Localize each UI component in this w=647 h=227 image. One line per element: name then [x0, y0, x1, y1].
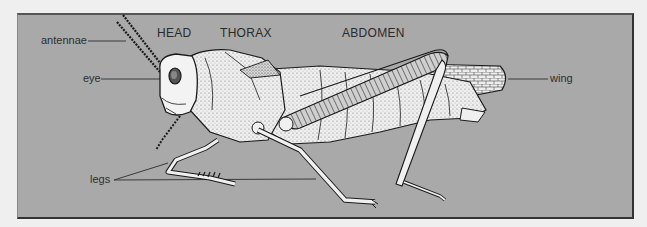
grasshopper-illustration	[0, 0, 647, 227]
legs-leader-line-front	[114, 163, 168, 180]
part-label-eye: eye	[83, 73, 101, 84]
antennae	[117, 15, 164, 72]
part-label-legs: legs	[90, 174, 110, 185]
region-label-thorax: THORAX	[220, 27, 272, 39]
region-label-head: HEAD	[157, 27, 192, 39]
part-label-antennae: antennae	[41, 35, 87, 46]
region-label-abdomen: ABDOMEN	[342, 27, 405, 39]
head	[160, 54, 198, 115]
part-label-wing: wing	[550, 73, 573, 84]
